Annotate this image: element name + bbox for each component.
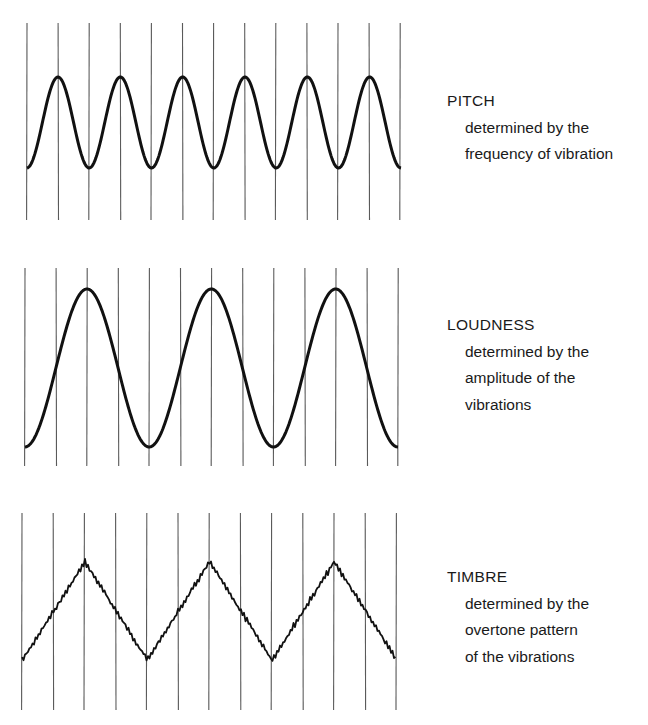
timbre-description-line-3: of the vibrations — [447, 644, 589, 671]
timbre-description-line-1: determined by the — [447, 591, 589, 618]
timbre-title: TIMBRE — [447, 564, 589, 591]
timbre-description-line-2: overtone pattern — [447, 617, 589, 644]
timbre-label: TIMBRE determined by the overtone patter… — [447, 564, 589, 670]
